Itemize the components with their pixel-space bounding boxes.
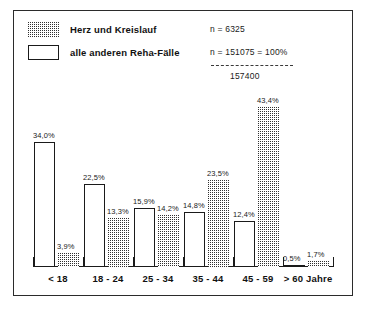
legend-count-herz-und-kreislauf: n = 6325 <box>210 22 245 37</box>
legend-count-alle-anderen-reha-faelle: n = 151075 = 100% <box>210 45 288 60</box>
x-axis-category-label: < 18 <box>30 273 86 284</box>
bar-group: 12,4%43,4% <box>233 95 283 267</box>
x-axis-category-label: 18 - 24 <box>80 273 136 284</box>
x-axis-category-label: > 60 Jahre <box>280 273 336 284</box>
bar-alle-anderen-reha-faelle <box>284 265 305 267</box>
bar-herz-und-kreislauf <box>208 180 229 267</box>
x-axis-category-label: 45 - 59 <box>230 273 286 284</box>
bar-value-label: 14,8% <box>183 201 205 210</box>
bar-alle-anderen-reha-faelle <box>184 212 205 267</box>
legend-sum-rule <box>211 65 293 66</box>
bar-alle-anderen-reha-faelle <box>234 221 255 267</box>
bar-group: 15,9%14,2% <box>133 95 183 267</box>
chart-legend: Herz und Kreislauf alle anderen Reha-Fäl… <box>14 11 352 93</box>
bar-alle-anderen-reha-faelle <box>34 142 55 267</box>
bar-value-label: 23,5% <box>207 169 229 178</box>
bar-herz-und-kreislauf <box>58 253 79 267</box>
bar-value-label: 34,0% <box>33 131 55 140</box>
legend-total-count: 157400 <box>230 69 260 84</box>
bar-value-label: 22,5% <box>83 173 105 182</box>
legend-swatch-open-icon <box>28 45 59 60</box>
chart-figure: Herz und Kreislauf alle anderen Reha-Fäl… <box>13 10 353 296</box>
bar-herz-und-kreislauf <box>158 215 179 267</box>
bar-value-label: 13,3% <box>107 207 129 216</box>
bar-group: 0,5%1,7% <box>283 95 333 267</box>
bar-value-label: 3,9% <box>57 242 75 251</box>
bar-value-label: 12,4% <box>233 210 255 219</box>
x-axis-tick <box>333 257 334 267</box>
x-axis-category-labels: < 1818 - 2425 - 3435 - 4445 - 59> 60 Jah… <box>33 273 339 289</box>
x-axis-category-label: 35 - 44 <box>180 273 236 284</box>
bar-group: 14,8%23,5% <box>183 95 233 267</box>
bar-alle-anderen-reha-faelle <box>84 184 105 267</box>
bar-herz-und-kreislauf <box>308 261 329 267</box>
legend-label-herz-und-kreislauf: Herz und Kreislauf <box>70 22 157 37</box>
bar-value-label: 14,2% <box>157 204 179 213</box>
legend-label-alle-anderen-reha-faelle: alle anderen Reha-Fälle <box>70 45 180 60</box>
legend-swatch-dotted-icon <box>28 22 59 37</box>
bar-herz-und-kreislauf <box>258 107 279 267</box>
bar-herz-und-kreislauf <box>108 218 129 267</box>
bar-group: 22,5%13,3% <box>83 95 133 267</box>
bar-group: 34,0%3,9% <box>33 95 83 267</box>
bar-value-label: 0,5% <box>283 254 301 263</box>
plot-area: 34,0%3,9%22,5%13,3%15,9%14,2%14,8%23,5%1… <box>33 95 333 267</box>
x-axis-category-label: 25 - 34 <box>130 273 186 284</box>
bar-value-label: 43,4% <box>257 96 279 105</box>
bar-value-label: 15,9% <box>133 197 155 206</box>
bar-value-label: 1,7% <box>307 250 325 259</box>
bar-alle-anderen-reha-faelle <box>134 208 155 267</box>
